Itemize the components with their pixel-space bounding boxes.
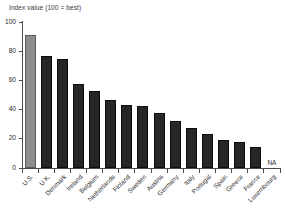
x-label-slot: Greece — [232, 172, 248, 212]
bar-spain — [218, 140, 229, 168]
bar-france — [250, 147, 261, 168]
bar-slot — [135, 22, 151, 168]
x-label-slot: Sweden — [135, 172, 151, 212]
bar-slot — [38, 22, 54, 168]
bar-greece — [234, 142, 245, 168]
chart-figure: Index value (100 = best) 020406080100 NA… — [0, 0, 285, 212]
bar-slot — [248, 22, 264, 168]
bar-us — [25, 35, 36, 168]
y-tick-label: 100 — [5, 18, 16, 25]
bar-slot — [167, 22, 183, 168]
x-label-slot: Denmark — [54, 172, 70, 212]
y-tick-label: 20 — [9, 134, 16, 141]
y-tick-label: 80 — [9, 47, 16, 54]
bar-slot — [183, 22, 199, 168]
bar-slot — [232, 22, 248, 168]
bar-slot — [216, 22, 232, 168]
y-tick-label: 0 — [12, 164, 16, 171]
y-tick-label: 40 — [9, 105, 16, 112]
bar-denmark — [57, 59, 68, 169]
bar-belgium — [89, 91, 100, 168]
x-axis-category-label: U.S. — [21, 173, 35, 187]
bar-slot — [119, 22, 135, 168]
na-label: NA — [267, 159, 276, 166]
bar-slot — [22, 22, 38, 168]
bar-slot: NA — [264, 22, 280, 168]
x-label-slot: Luxembourg — [264, 172, 280, 212]
x-label-slot: U.S. — [22, 172, 38, 212]
bar-finland — [121, 105, 132, 169]
bar-slot — [103, 22, 119, 168]
bar-series: NA — [22, 22, 280, 168]
bar-slot — [87, 22, 103, 168]
bar-netherlands — [105, 100, 116, 168]
bar-ireland — [73, 84, 84, 168]
x-axis-labels: U.S.U.K.DenmarkIrelandBelgiumNetherlands… — [22, 172, 280, 212]
bar-portugal — [202, 134, 213, 168]
bar-germany — [170, 121, 181, 168]
bar-slot — [54, 22, 70, 168]
bar-slot — [151, 22, 167, 168]
bar-italy — [186, 128, 197, 168]
bar-uk — [41, 56, 52, 168]
x-label-slot: Germany — [167, 172, 183, 212]
y-tick-label: 60 — [9, 76, 16, 83]
bar-austria — [154, 113, 165, 168]
bar-slot — [70, 22, 86, 168]
x-label-slot: Portugal — [199, 172, 215, 212]
chart-subtitle: Index value (100 = best) — [9, 4, 81, 11]
plot-area: 020406080100 NA — [22, 22, 280, 168]
bar-sweden — [137, 106, 148, 168]
bar-slot — [199, 22, 215, 168]
